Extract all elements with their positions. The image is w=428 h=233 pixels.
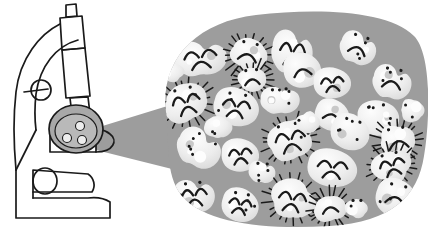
germ-eye [351, 199, 354, 202]
microscope-objective-lens [49, 105, 103, 153]
microscope-germs-illustration [0, 0, 428, 233]
germ-organelle [411, 102, 422, 113]
germ-organelle [163, 69, 171, 77]
microscope [14, 4, 114, 218]
germ-speckle [178, 196, 181, 199]
germ-speckle [297, 119, 300, 122]
microscope-eyepiece [60, 4, 85, 50]
microscope-illuminator [33, 168, 94, 194]
germ-speckle [350, 205, 353, 208]
magnified-field [152, 12, 428, 233]
germ-speckle [411, 115, 414, 118]
microscope-base [16, 170, 110, 218]
germ-organelle [309, 116, 315, 122]
illustration-canvas: Microscope viewing germs Hand-drawn micr… [0, 0, 428, 233]
germ-eye [359, 199, 362, 202]
germ-speckle [404, 104, 407, 107]
